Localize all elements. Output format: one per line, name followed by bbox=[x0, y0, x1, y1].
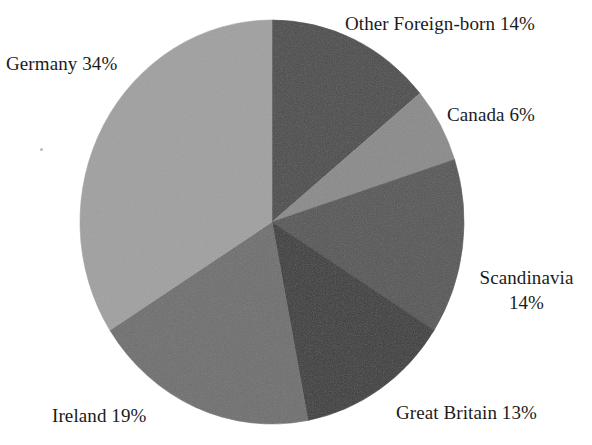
slice-label-great-britain: Great Britain 13% bbox=[396, 401, 537, 424]
slice-label-scandinavia: Scandinavia 14% bbox=[474, 265, 579, 315]
slice-label-germany: Germany 34% bbox=[6, 52, 117, 75]
pie-chart-figure: Other Foreign-born 14% Canada 6% Scandin… bbox=[0, 0, 592, 445]
slice-label-scandinavia-name: Scandinavia bbox=[480, 267, 574, 288]
slice-label-scandinavia-percent: 14% bbox=[509, 292, 544, 313]
slice-label-canada: Canada 6% bbox=[447, 103, 535, 126]
slice-label-ireland: Ireland 19% bbox=[52, 404, 146, 427]
scan-speck bbox=[40, 148, 43, 151]
slice-label-other-foreign-born: Other Foreign-born 14% bbox=[345, 12, 535, 35]
